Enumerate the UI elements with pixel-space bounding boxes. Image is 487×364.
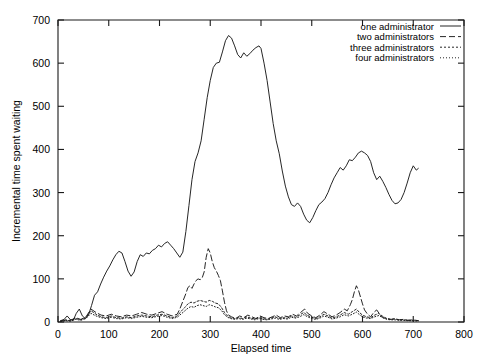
legend-label-1: two administrators [357,31,434,42]
legend-label-2: three administrators [350,42,434,53]
x-axis-title: Elapsed time [231,342,292,354]
chart-legend: one administratortwo administratorsthree… [350,21,461,64]
x-tick-label: 400 [252,328,270,340]
x-tick-label: 800 [455,328,473,340]
y-tick-label: 500 [32,100,50,112]
x-axis-ticks: 0100200300400500600700800 [55,20,473,340]
x-tick-label: 700 [404,328,422,340]
y-tick-label: 400 [32,143,50,155]
series-line-3 [61,305,419,322]
y-tick-label: 600 [32,57,50,69]
y-tick-label: 700 [32,14,50,26]
y-axis-title: Incremental time spent waiting [10,100,22,242]
y-tick-label: 300 [32,187,50,199]
x-tick-label: 100 [100,328,118,340]
y-tick-label: 100 [32,273,50,285]
x-tick-label: 300 [201,328,219,340]
y-tick-label: 0 [44,316,50,328]
series-line-1 [61,249,419,321]
plot-frame [58,20,464,322]
x-tick-label: 200 [151,328,169,340]
legend-label-3: four administrators [355,52,434,63]
x-tick-label: 600 [354,328,372,340]
x-tick-label: 0 [55,328,61,340]
legend-label-0: one administrator [361,21,434,32]
x-tick-label: 500 [303,328,321,340]
series-line-0 [61,36,419,321]
chart-figure: 0100200300400500600700 01002003004005006… [0,0,487,364]
chart-canvas: 0100200300400500600700 01002003004005006… [0,0,487,364]
data-series-group [61,36,419,322]
y-tick-label: 200 [32,230,50,242]
